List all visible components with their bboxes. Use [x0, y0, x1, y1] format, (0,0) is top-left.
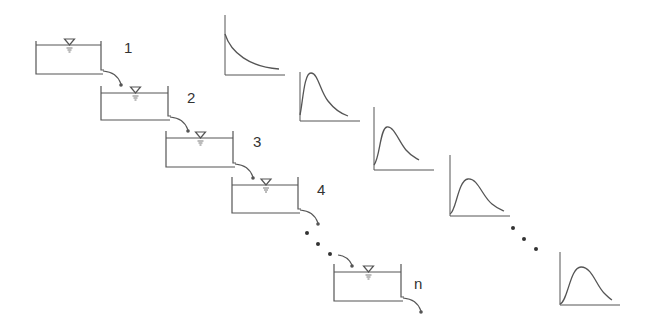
outflow-arrows-group: [103, 71, 423, 314]
reservoir-4: [232, 177, 301, 213]
tank-wall: [36, 41, 103, 74]
outflow-arrow-2: [170, 117, 188, 130]
ellipsis-dot: [316, 242, 320, 246]
water-level-icon: [364, 266, 374, 272]
reservoir-1: [36, 39, 104, 74]
water-level-icon: [131, 87, 141, 93]
hydrograph-curve: [374, 127, 419, 165]
tank-wall-right: [298, 177, 301, 209]
outflow-drop-2: [186, 129, 190, 133]
inflow-drop-n: [350, 264, 354, 268]
hydrograph-after-reservoir-2: [300, 72, 360, 121]
water-level-icon: [65, 39, 75, 45]
hydrograph-curve: [300, 73, 348, 116]
outflow-drop-3: [251, 176, 255, 180]
reservoir-label-4: 4: [317, 182, 325, 197]
outflow-arrow-n: [403, 298, 421, 311]
outflow-drop-4: [316, 222, 320, 226]
hydrograph-curve: [450, 179, 504, 214]
hydrograph-curve: [225, 34, 279, 69]
reservoirs-group: [36, 39, 404, 301]
inflow-arrow-n: [338, 255, 352, 265]
water-level-icon: [196, 132, 206, 138]
tank-wall-right: [168, 86, 171, 116]
tank-wall-right: [401, 264, 404, 297]
ellipsis-dot: [534, 247, 538, 251]
reservoir-n: [334, 264, 404, 301]
reservoir-3: [166, 131, 236, 167]
hydrograph-after-reservoir-n: [560, 252, 620, 305]
tank-wall: [101, 86, 170, 120]
hydrograph-after-reservoir-4: [450, 155, 510, 216]
reservoir-label-2: 2: [187, 90, 195, 105]
ellipsis-dot: [511, 226, 515, 230]
outflow-arrow-4: [300, 210, 318, 223]
reservoir-label-1: 1: [124, 40, 132, 55]
ellipsis-group: [305, 226, 538, 256]
tank-wall-right: [101, 41, 104, 70]
water-level-icon: [261, 179, 271, 185]
tank-wall: [232, 177, 300, 213]
hydrograph-curve: [560, 267, 612, 304]
ellipsis-dot: [328, 252, 332, 256]
hydrograph-after-reservoir-1: [225, 15, 285, 75]
hydrographs-group: [225, 15, 620, 305]
tank-wall: [334, 264, 403, 301]
ellipsis-dot: [305, 231, 309, 235]
outflow-arrow-1: [103, 71, 121, 84]
outflow-arrow-3: [235, 164, 253, 177]
reservoir-2: [101, 86, 171, 120]
reservoir-label-3: 3: [253, 134, 261, 149]
outflow-drop-1: [119, 83, 123, 87]
outflow-drop-n: [419, 310, 423, 314]
tank-wall-right: [233, 131, 236, 163]
reservoir-cascade-diagram: [0, 0, 647, 326]
ellipsis-dot: [522, 237, 526, 241]
hydrograph-after-reservoir-3: [374, 107, 434, 170]
reservoir-label-n: n: [414, 276, 422, 291]
tank-wall: [166, 131, 235, 167]
